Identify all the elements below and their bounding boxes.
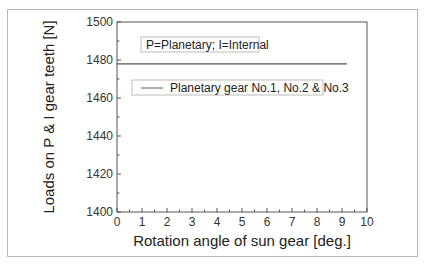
x-tick-label: 9 xyxy=(339,215,346,229)
x-axis: 012345678910 xyxy=(114,208,374,229)
x-axis-title: Rotation angle of sun gear [deg.] xyxy=(133,232,351,249)
x-tick-label: 3 xyxy=(189,215,196,229)
x-tick-label: 6 xyxy=(264,215,271,229)
y-axis-title: Loads on P & I gear teeth [N] xyxy=(40,20,57,213)
x-tick-label: 2 xyxy=(164,215,171,229)
x-tick-label: 7 xyxy=(289,215,296,229)
y-tick-label: 1500 xyxy=(86,15,113,29)
legend-label: Planetary gear No.1, No.2 & No.3 xyxy=(170,81,349,95)
chart: 140014201440146014801500 012345678910 P=… xyxy=(0,0,426,264)
y-tick-label: 1400 xyxy=(86,205,113,219)
x-tick-label: 8 xyxy=(314,215,321,229)
y-tick-label: 1460 xyxy=(86,91,113,105)
x-tick-label: 5 xyxy=(239,215,246,229)
x-tick-label: 0 xyxy=(114,215,121,229)
x-tick-label: 10 xyxy=(360,215,374,229)
annotation-text: P=Planetary; I=Internal xyxy=(146,38,269,52)
x-tick-label: 1 xyxy=(139,215,146,229)
y-axis: 140014201440146014801500 xyxy=(86,15,121,219)
y-tick-label: 1480 xyxy=(86,53,113,67)
y-tick-label: 1420 xyxy=(86,167,113,181)
y-tick-label: 1440 xyxy=(86,129,113,143)
x-tick-label: 4 xyxy=(214,215,221,229)
